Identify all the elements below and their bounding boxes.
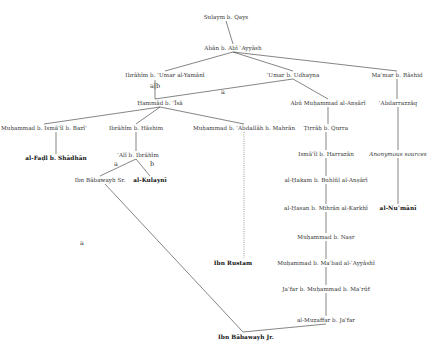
node-mamar: Maʿmar b. Rāshid (371, 72, 422, 79)
node-hakam: al-Ḥakam b. Buhlūl al-Anṣārī (284, 177, 367, 184)
node-numani: al-Nuʿmānī (380, 205, 417, 212)
node-kulayni: al-Kulaynī (133, 177, 167, 184)
node-anonymous: Anonymous sources (369, 151, 426, 158)
node-ibn-rustam: Ibn Rustam (214, 260, 252, 267)
node-aban: Abān b. Abī ʿAyyāsh (204, 45, 261, 52)
node-hammad: Ḥammād b. ʿĪsā (137, 100, 183, 107)
node-jafar-muhammad: Jaʿfar b. Muḥammad b. Maʿrūf (282, 286, 370, 293)
edge-label-ab: a|b (150, 82, 160, 90)
node-ali-ibrahim: ʿAlī b. Ibrāhīm (117, 152, 159, 159)
node-hasan-mihran: al-Ḥasan b. Mihrān al-Karkhī (284, 205, 368, 212)
node-muhammad-nasr: Muḥammad b. Naṣr (297, 234, 354, 241)
node-abdarrazzaq: ʿAbdarrazzāq (379, 100, 417, 107)
node-muhammad-ismail: Muḥammad b. Ismāʿīl b. Bazīʿ (1, 125, 87, 132)
node-muhammad-mabad: Muḥammad b. Maʿbad al-ʿAyyāshī (277, 260, 375, 267)
node-ibrahim-hashim: Ibrāhīm b. Hāshim (109, 125, 163, 132)
node-abu-muhammad: Abū Muḥammad al-Anṣārī (291, 100, 366, 107)
node-muzaffar: al-Muẓaffar b. Jaʿfar (297, 317, 355, 324)
node-fadl: al-Faḍl b. Shādhān (25, 155, 87, 162)
connector-lines (0, 0, 447, 360)
node-sulaym: Sulaym b. Qays (204, 14, 249, 21)
node-ibn-babawayh-sr: Ibn Bābawayh Sr. (75, 177, 126, 184)
edge-label-a-long: a (80, 239, 84, 247)
edge-label-b-ali: b (150, 160, 154, 168)
node-ismail-harrazan: Ismāʿīl b. Harrazān (298, 151, 354, 158)
edge-label-a-ali: a (114, 160, 118, 168)
node-umar-udhayna: ʿUmar b. Udhayna (267, 72, 320, 79)
edge-label-a-hammad: a (221, 88, 225, 96)
isnad-diagram: Sulaym b. Qays Abān b. Abī ʿAyyāsh Ibrāh… (0, 0, 447, 360)
node-ibn-babawayh-jr: Ibn Bābawayh Jr. (218, 334, 274, 341)
node-ibrahim-umar: Ibrāhīm b. ʿUmar al-Yamānī (125, 72, 204, 79)
node-muhammad-abdallah: Muḥammad b. ʿAbdallāh b. Mahrān (193, 125, 295, 132)
node-tirrah: Ṭirrāḥ b. Qurra (304, 125, 348, 132)
